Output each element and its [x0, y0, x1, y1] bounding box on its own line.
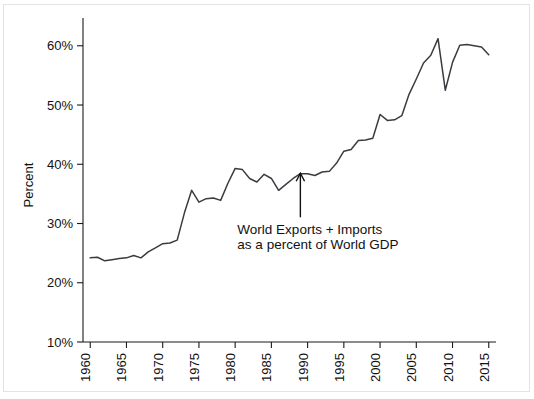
- x-tick-label: 2015: [477, 353, 492, 382]
- x-tick-label: 1970: [151, 353, 166, 382]
- x-tick-label: 1965: [114, 353, 129, 382]
- annotation-line-1: World Exports + Imports: [237, 222, 382, 237]
- y-tick-label: 60%: [47, 38, 73, 53]
- x-tick-label: 1990: [296, 353, 311, 382]
- annotation-line-2: as a percent of World GDP: [237, 237, 398, 252]
- y-tick-label: 10%: [47, 335, 73, 350]
- x-tick-label: 1985: [259, 353, 274, 382]
- y-axis-title: Percent: [21, 162, 36, 207]
- y-tick-label: 50%: [47, 98, 73, 113]
- y-tick-label: 30%: [47, 216, 73, 231]
- y-tick-label: 40%: [47, 157, 73, 172]
- y-tick-label: 20%: [47, 275, 73, 290]
- x-tick-label: 2010: [441, 353, 456, 382]
- line-chart: 10%20%30%40%50%60%1960196519701975198019…: [0, 0, 534, 399]
- x-tick-label: 2005: [404, 353, 419, 382]
- x-tick-label: 1960: [78, 353, 93, 382]
- x-tick-label: 1995: [332, 353, 347, 382]
- x-tick-label: 2000: [368, 353, 383, 382]
- chart-figure: 10%20%30%40%50%60%1960196519701975198019…: [0, 0, 534, 399]
- x-tick-label: 1975: [187, 353, 202, 382]
- x-tick-label: 1980: [223, 353, 238, 382]
